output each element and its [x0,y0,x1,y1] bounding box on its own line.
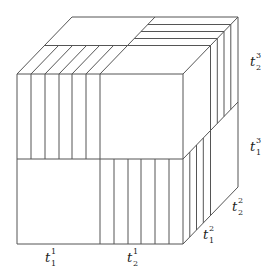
svg-text:2: 2 [256,63,261,72]
svg-text:2: 2 [209,224,214,233]
label-t1-3: t 3 1 [250,136,261,157]
svg-text:3: 3 [256,51,261,60]
label-t1-1: t 1 1 [45,247,56,268]
svg-text:2: 2 [238,196,243,205]
label-t2-3: t 3 2 [250,51,261,72]
svg-text:1: 1 [51,259,56,268]
svg-text:2: 2 [133,259,138,268]
label-t1-2: t 2 1 [203,224,214,245]
svg-text:1: 1 [256,148,261,157]
svg-text:1: 1 [133,247,138,256]
label-t2-2: t 2 2 [232,196,243,217]
svg-text:2: 2 [238,208,243,217]
label-t2-1: t 1 2 [127,247,138,268]
cube-partition-diagram: t 1 1 t 1 2 t 2 1 t 2 2 t 3 1 t 3 2 [0,0,276,274]
svg-text:3: 3 [256,136,261,145]
svg-text:1: 1 [51,247,56,256]
svg-text:1: 1 [209,236,214,245]
